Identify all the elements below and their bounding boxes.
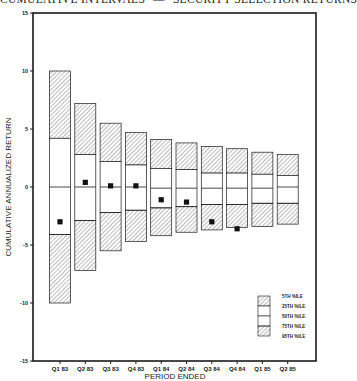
bar-q2-84 bbox=[176, 143, 197, 232]
legend-label-95th: 95TH %ILE bbox=[282, 334, 305, 339]
lower-hatch-segment bbox=[176, 207, 197, 233]
y-axis-title: CUMULATIVE ANNUALIZED RETURN bbox=[4, 117, 13, 256]
x-tick-label: Q2 85 bbox=[280, 366, 297, 372]
portfolio-marker bbox=[184, 199, 189, 204]
y-tick-label: 0 bbox=[25, 184, 28, 190]
legend-label-25th: 25TH %ILE bbox=[282, 304, 305, 309]
x-tick-label: Q3 83 bbox=[102, 366, 119, 372]
upper-hatch-segment bbox=[125, 132, 146, 164]
bar-q4-83 bbox=[125, 132, 146, 241]
interquartile-segment bbox=[201, 173, 222, 204]
upper-hatch-segment bbox=[100, 123, 121, 161]
bar-q4-84 bbox=[227, 149, 248, 232]
x-tick-label: Q4 83 bbox=[128, 366, 145, 372]
portfolio-marker bbox=[209, 219, 214, 224]
lower-hatch-segment bbox=[277, 203, 298, 224]
x-tick-label: Q2 83 bbox=[77, 366, 94, 372]
x-axis-title: PERIOD ENDED bbox=[145, 372, 206, 381]
interquartile-segment bbox=[252, 174, 273, 203]
bar-q2-83 bbox=[75, 103, 96, 270]
upper-hatch-segment bbox=[227, 149, 248, 173]
bar-q1-85 bbox=[252, 152, 273, 226]
lower-hatch-segment bbox=[100, 213, 121, 251]
upper-hatch-segment bbox=[151, 139, 172, 168]
x-axis-ticks: Q1 83Q2 83Q3 83Q4 83Q1 84Q2 84Q3 84Q4 84… bbox=[52, 361, 297, 372]
portfolio-marker bbox=[83, 180, 88, 185]
y-tick-label: -10 bbox=[20, 300, 28, 306]
portfolio-marker bbox=[159, 197, 164, 202]
legend-label-75th: 75TH %ILE bbox=[282, 324, 305, 329]
interquartile-segment bbox=[75, 155, 96, 221]
legend-label-5th: 5TH %ILE bbox=[282, 294, 303, 299]
upper-hatch-segment bbox=[50, 71, 71, 138]
y-tick-label: -15 bbox=[20, 358, 28, 364]
bar-q1-84 bbox=[151, 139, 172, 235]
y-tick-label: -5 bbox=[23, 242, 28, 248]
upper-hatch-segment bbox=[277, 155, 298, 176]
x-tick-label: Q4 84 bbox=[229, 366, 246, 372]
legend: 5TH %ILE 25TH %ILE 50TH %ILE 75TH %ILE 9… bbox=[258, 294, 305, 339]
upper-hatch-segment bbox=[75, 103, 96, 154]
upper-hatch-segment bbox=[252, 152, 273, 174]
lower-hatch-segment bbox=[151, 208, 172, 236]
upper-hatch-segment bbox=[176, 143, 197, 170]
lower-hatch-segment bbox=[125, 210, 146, 241]
bar-q1-83 bbox=[50, 71, 71, 303]
interquartile-segment bbox=[277, 175, 298, 203]
x-tick-label: Q3 84 bbox=[204, 366, 221, 372]
legend-label-50th: 50TH %ILE bbox=[282, 314, 305, 319]
portfolio-marker bbox=[57, 219, 62, 224]
lower-hatch-segment bbox=[227, 204, 248, 227]
x-tick-label: Q1 83 bbox=[52, 366, 69, 372]
bar-q3-83 bbox=[100, 123, 121, 251]
legend-swatch-mid-lower bbox=[258, 316, 270, 326]
bar-q3-84 bbox=[201, 146, 222, 230]
percentile-bars bbox=[50, 71, 299, 303]
y-tick-label: 10 bbox=[22, 68, 28, 74]
portfolio-marker bbox=[235, 226, 240, 231]
lower-hatch-segment bbox=[75, 221, 96, 271]
y-tick-label: 15 bbox=[22, 10, 28, 16]
legend-swatch-top-hatch bbox=[258, 296, 270, 306]
portfolio-marker bbox=[108, 183, 113, 188]
upper-hatch-segment bbox=[201, 146, 222, 173]
y-axis-ticks: 151050-5-10-15 bbox=[20, 10, 33, 364]
y-tick-label: 5 bbox=[25, 126, 28, 132]
portfolio-marker bbox=[133, 183, 138, 188]
lower-hatch-segment bbox=[50, 235, 71, 303]
interquartile-segment bbox=[227, 173, 248, 204]
x-tick-label: Q1 85 bbox=[254, 366, 271, 372]
bar-q2-85 bbox=[277, 155, 298, 225]
legend-swatch-bottom-hatch bbox=[258, 326, 270, 336]
legend-swatch-mid-upper bbox=[258, 306, 270, 316]
lower-hatch-segment bbox=[252, 203, 273, 226]
lower-hatch-segment bbox=[201, 204, 222, 230]
